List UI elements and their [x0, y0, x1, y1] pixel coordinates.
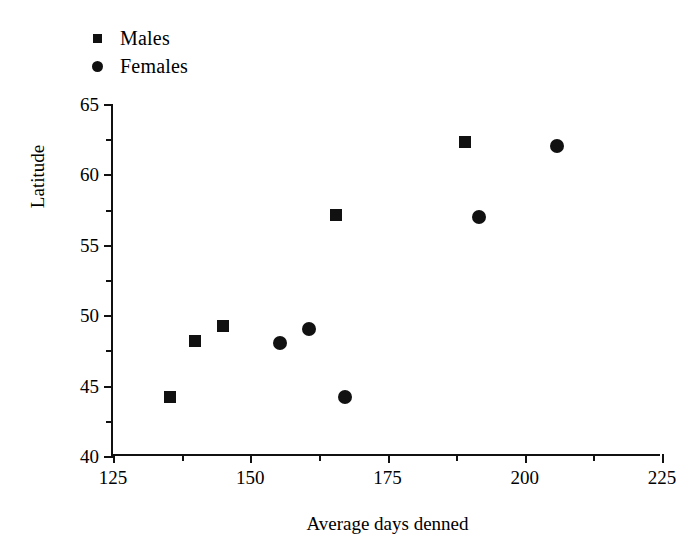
legend-circle-marker-icon [84, 61, 110, 72]
y-tick-label: 50 [80, 306, 99, 325]
data-point-males [217, 320, 229, 332]
y-tick-label: 40 [80, 447, 99, 466]
x-tick-label: 175 [373, 468, 402, 487]
x-tick-label: 150 [236, 468, 265, 487]
chart-legend: Males Females [84, 24, 304, 80]
legend-label-females: Females [110, 56, 188, 76]
data-point-females [338, 390, 352, 404]
y-tick-major [104, 104, 113, 106]
data-point-males [189, 335, 201, 347]
y-tick-label: 60 [80, 165, 99, 184]
y-tick-minor [106, 280, 113, 282]
scatter-plot-figure: Males Females 404550556065 1251501752002… [0, 0, 690, 553]
y-tick-major [104, 386, 113, 388]
legend-item-females: Females [84, 52, 304, 80]
data-point-females [472, 210, 486, 224]
x-tick-minor [593, 454, 595, 461]
y-tick-label: 45 [80, 377, 99, 396]
y-tick-major [104, 245, 113, 247]
y-tick-minor [106, 210, 113, 212]
x-axis-title: Average days denned [113, 514, 662, 533]
data-points-layer [113, 104, 662, 456]
y-tick-minor [106, 421, 113, 423]
x-tick-label: 125 [99, 468, 128, 487]
legend-item-males: Males [84, 24, 304, 52]
y-tick-minor [106, 350, 113, 352]
y-tick-major [104, 456, 113, 458]
data-point-females [273, 336, 287, 350]
y-axis-title: Latitude [26, 0, 50, 352]
data-point-males [459, 136, 471, 148]
data-point-males [164, 391, 176, 403]
x-tick-major [250, 454, 252, 463]
x-tick-major [525, 454, 527, 463]
x-tick-minor [182, 454, 184, 461]
x-tick-major [388, 454, 390, 463]
legend-label-males: Males [110, 28, 170, 48]
y-axis-title-text: Latitude [29, 144, 48, 207]
plot-area: 404550556065 125150175200225 Average day… [111, 104, 660, 456]
data-point-females [550, 139, 564, 153]
data-point-males [330, 209, 342, 221]
y-tick-minor [106, 139, 113, 141]
x-tick-major [113, 454, 115, 463]
y-tick-major [104, 174, 113, 176]
x-tick-label: 200 [511, 468, 540, 487]
x-tick-minor [319, 454, 321, 461]
x-tick-major [662, 454, 664, 463]
data-point-females [302, 322, 316, 336]
y-tick-major [104, 315, 113, 317]
y-tick-label: 55 [80, 236, 99, 255]
x-tick-label: 225 [648, 468, 677, 487]
y-tick-label: 65 [80, 95, 99, 114]
legend-square-marker-icon [84, 34, 110, 43]
x-tick-minor [456, 454, 458, 461]
